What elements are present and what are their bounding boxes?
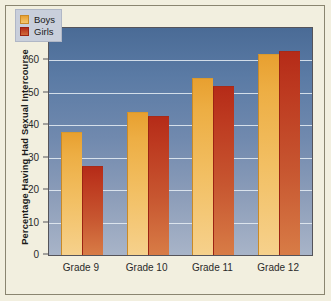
chart-legend: BoysGirls (15, 9, 62, 42)
legend-swatch-boys-icon (20, 15, 29, 24)
y-tick-label: 50 (28, 86, 39, 97)
y-axis: Percentage Having Had Sexual Intercourse… (0, 0, 48, 301)
legend-item-boys: Boys (20, 14, 55, 25)
bar-boys-grade-10 (127, 112, 148, 255)
bar-girls-grade-9 (82, 166, 103, 255)
bar-girls-grade-12 (279, 51, 300, 255)
y-tick-label: 0 (33, 249, 39, 260)
bar-boys-grade-12 (258, 54, 279, 255)
y-tick-label: 30 (28, 151, 39, 162)
legend-item-girls: Girls (20, 26, 55, 37)
plot-area (48, 27, 313, 256)
y-tick-label: 60 (28, 54, 39, 65)
x-tick-label: Grade 9 (63, 262, 99, 273)
bar-boys-grade-9 (61, 132, 82, 255)
bar-girls-grade-11 (213, 86, 234, 255)
x-axis: Grade 9Grade 10Grade 11Grade 12 (48, 262, 313, 282)
x-tick-label: Grade 11 (192, 262, 233, 273)
legend-swatch-girls-icon (20, 27, 29, 36)
y-tick-label: 20 (28, 184, 39, 195)
legend-label: Boys (34, 14, 55, 25)
bar-girls-grade-10 (148, 116, 169, 255)
chart-figure: Percentage Having Had Sexual Intercourse… (0, 0, 331, 301)
x-tick-label: Grade 10 (126, 262, 168, 273)
legend-label: Girls (34, 26, 54, 37)
x-tick-label: Grade 12 (257, 262, 299, 273)
bar-boys-grade-11 (192, 78, 213, 255)
y-tick-label: 10 (28, 216, 39, 227)
y-tick-label: 40 (28, 119, 39, 130)
